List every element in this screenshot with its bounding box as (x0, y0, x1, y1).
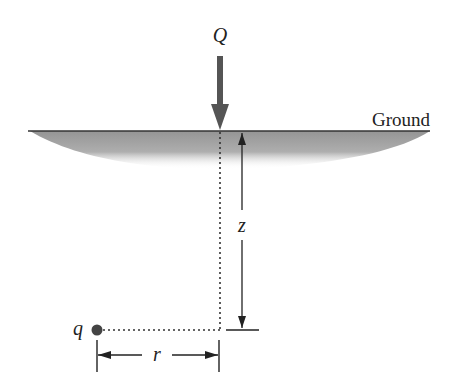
diagram-canvas: Ground Q z q (0, 0, 450, 392)
ground-shading (30, 131, 430, 169)
radial-label: r (153, 343, 161, 365)
ground-label: Ground (372, 109, 431, 130)
load-label: Q (213, 24, 228, 46)
depth-label: z (237, 214, 246, 236)
ground-surface (28, 131, 430, 169)
load-arrow-icon (211, 56, 229, 130)
point-q-marker (92, 325, 103, 336)
point-label: q (73, 317, 83, 340)
boussinesq-diagram: Ground Q z q (0, 0, 450, 392)
